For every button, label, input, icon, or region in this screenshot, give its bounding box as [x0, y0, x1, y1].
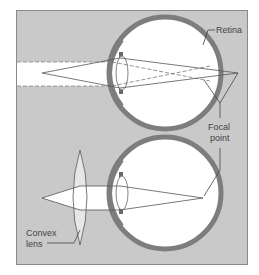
crystalline-lens-top	[116, 56, 128, 90]
uncorrected-eye-panel	[17, 17, 238, 129]
retina-label: Retina	[216, 25, 242, 35]
crystalline-lens-bottom	[116, 176, 128, 210]
convex-lens-label-line2: lens	[26, 239, 43, 249]
light-beam	[17, 62, 112, 86]
convex-lens-label-line1: Convex	[26, 228, 57, 238]
focal-point-label-line1: Focal	[208, 122, 230, 132]
focal-point-label-line2: point	[210, 133, 230, 143]
corrected-eye-panel	[42, 137, 221, 249]
